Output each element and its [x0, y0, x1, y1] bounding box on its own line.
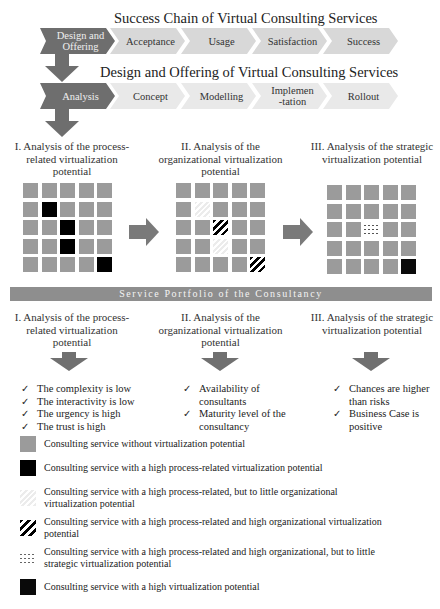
check-icon: ✓ — [21, 408, 29, 421]
service-cell-gray — [383, 241, 398, 256]
check-icon: ✓ — [333, 383, 341, 396]
service-cell-gray — [364, 241, 379, 256]
chevron-label: Design and Offering — [50, 30, 106, 52]
criteria-item: ✓Availability of consultants — [183, 383, 293, 408]
criteria-text: The interactivity is low — [37, 396, 135, 407]
criteria-list-organizational: ✓Availability of consultants ✓Maturity l… — [183, 383, 293, 433]
service-cell-gray — [195, 220, 210, 235]
criteria-text: Maturity level of the consultancy — [199, 408, 286, 432]
service-cell-gray — [79, 220, 94, 235]
dashed-square-icon — [20, 550, 36, 566]
service-cell-gray — [195, 183, 210, 198]
legend-item-high-potential: Consulting service with a high virtualiz… — [20, 579, 420, 595]
chevron-success: Success — [323, 28, 398, 54]
down-arrow-icon — [45, 66, 79, 82]
service-cell-gray — [176, 257, 191, 272]
down-arrow-icon — [50, 352, 88, 372]
service-cell-gray — [327, 259, 342, 274]
check-icon: ✓ — [183, 383, 191, 396]
criteria-heading-strategic: III. Analysis of the strategic virtualiz… — [308, 311, 436, 336]
service-cell-gray — [383, 185, 398, 200]
legend-item-no-potential: Consulting service without virtualizatio… — [20, 436, 420, 452]
service-cell-gray — [383, 259, 398, 274]
check-icon: ✓ — [183, 408, 191, 421]
service-cell-gray — [97, 183, 112, 198]
service-cell-gray — [364, 259, 379, 274]
service-cell-gray — [23, 202, 38, 217]
chevron-concept: Concept — [110, 83, 185, 109]
chevron-rollout: Rollout — [323, 83, 398, 109]
criteria-text: The urgency is high — [37, 408, 121, 419]
service-cell-dotted — [401, 259, 416, 274]
service-cell-black — [60, 220, 75, 235]
service-cell-gray — [364, 185, 379, 200]
criteria-list-strategic: ✓Chances are higher than risks ✓Business… — [333, 383, 433, 433]
chevron-label: Analysis — [56, 91, 99, 102]
striped-square-icon — [20, 520, 36, 536]
legend-text: Consulting service with a high process-r… — [44, 486, 389, 510]
service-cell-gray — [23, 183, 38, 198]
service-cell-gray — [42, 183, 57, 198]
check-icon: ✓ — [21, 396, 29, 409]
check-icon: ✓ — [21, 383, 29, 396]
service-cell-gray — [60, 202, 75, 217]
service-cell-gray — [79, 183, 94, 198]
criteria-item: ✓Maturity level of the consultancy — [183, 408, 293, 433]
service-portfolio-bar: Service Portfolio of the Consultancy — [10, 287, 432, 301]
service-cell-gray — [250, 220, 265, 235]
legend-text: Consulting service with a high process-r… — [44, 462, 389, 474]
criteria-text: Chances are higher than risks — [349, 383, 429, 407]
criteria-item: ✓The interactivity is low — [21, 396, 151, 409]
check-icon: ✓ — [21, 421, 29, 434]
service-cell-black — [42, 202, 57, 217]
legend-item-little-strategic: Consulting service with a high process-r… — [20, 546, 420, 570]
portfolio-grid-process — [23, 183, 112, 272]
service-cell-gray — [383, 204, 398, 219]
service-cell-gray — [97, 239, 112, 254]
portfolio-grid-organizational — [176, 183, 265, 272]
criteria-text: Business Case is positive — [349, 408, 419, 432]
chevron-label: Implemen-tation — [265, 85, 315, 107]
service-cell-black — [97, 257, 112, 272]
service-cell-gray — [346, 222, 361, 237]
service-cell-gray — [23, 239, 38, 254]
section-heading-strategic: III. Analysis of the strategic virtualiz… — [308, 140, 436, 165]
service-cell-gray — [213, 257, 228, 272]
service-cell-gray — [23, 220, 38, 235]
criteria-heading-organizational: II. Analysis of the organizational virtu… — [158, 311, 283, 349]
service-cell-gray — [327, 204, 342, 219]
check-icon: ✓ — [333, 408, 341, 421]
chevron-label: Success — [341, 36, 380, 47]
service-cell-gray — [401, 222, 416, 237]
criteria-item: ✓The trust is high — [21, 421, 151, 434]
service-cell-gray — [232, 220, 247, 235]
section-heading-process: I. Analysis of the process-related virtu… — [8, 140, 136, 178]
service-cell-faint — [213, 239, 228, 254]
chevron-design-and-offering: Design and Offering — [40, 28, 115, 54]
legend-text: Consulting service with a high virtualiz… — [44, 581, 389, 593]
service-cell-black — [60, 239, 75, 254]
service-cell-gray — [250, 239, 265, 254]
service-cell-gray — [346, 204, 361, 219]
criteria-item: ✓Business Case is positive — [333, 408, 433, 433]
service-cell-gray — [176, 183, 191, 198]
chevron-implementation: Implemen-tation — [252, 83, 327, 109]
service-cell-stripe — [213, 220, 228, 235]
criteria-item: ✓The urgency is high — [21, 408, 151, 421]
service-cell-gray — [401, 204, 416, 219]
legend-item-process-potential: Consulting service with a high process-r… — [20, 460, 420, 476]
criteria-text: The complexity is low — [37, 383, 131, 394]
success-chain-title: Success Chain of Virtual Consulting Serv… — [114, 10, 377, 27]
service-cell-gray — [176, 202, 191, 217]
chevron-acceptance: Acceptance — [110, 28, 185, 54]
service-cell-gray — [327, 241, 342, 256]
chevron-label: Usage — [202, 36, 234, 47]
chevron-label: Satisfaction — [262, 36, 318, 47]
service-cell-gray — [383, 222, 398, 237]
black-square-icon — [20, 460, 36, 476]
service-cell-gray — [346, 185, 361, 200]
service-cell-gray — [232, 257, 247, 272]
service-cell-gray — [232, 239, 247, 254]
service-cell-gray — [79, 257, 94, 272]
chevron-label: Rollout — [342, 91, 380, 102]
